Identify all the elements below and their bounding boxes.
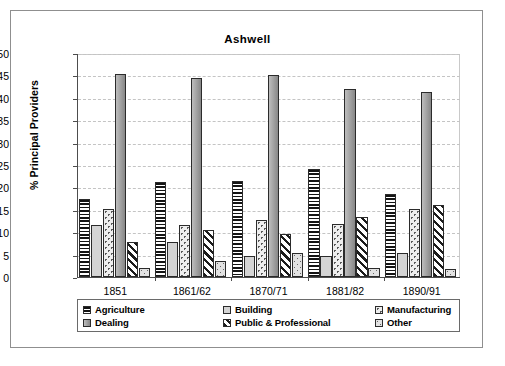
y-axis-label: % Principal Providers [28,50,40,220]
legend-item-building[interactable]: Building [223,304,375,315]
bar[interactable] [385,194,396,277]
y-tick-label: 10 [0,227,9,239]
y-tick-label: 50 [0,48,9,60]
x-axis-tick [155,277,156,281]
bar[interactable] [421,92,432,277]
legend-label: Public & Professional [235,317,331,328]
x-axis-tick [384,277,385,281]
bar[interactable] [191,78,202,277]
bar[interactable] [79,199,90,277]
legend-item-agriculture[interactable]: Agriculture [83,304,223,315]
y-tick-label: 5 [0,250,9,262]
bar[interactable] [179,225,190,277]
legend-label: Other [387,317,412,328]
building-swatch-icon [223,306,231,314]
legend-label: Manufacturing [387,304,451,315]
y-tick-label: 25 [0,160,9,172]
x-tick-label: 1851 [104,285,127,297]
x-tick-label: 1881/82 [326,285,364,297]
y-tick-label: 20 [0,182,9,194]
bar[interactable] [332,224,343,277]
chart-title: Ashwell [11,33,484,45]
bar[interactable] [232,181,243,277]
chart-legend: Agriculture Building Manufacturing Deali… [77,299,460,332]
bar[interactable] [103,209,114,277]
bar[interactable] [203,230,214,277]
bar[interactable] [127,242,138,277]
bar-group [308,54,385,277]
bar[interactable] [91,225,102,277]
y-tick-label: 35 [0,115,9,127]
bar[interactable] [308,169,319,277]
bar[interactable] [268,75,279,277]
y-tick-label: 40 [0,93,9,105]
bar[interactable] [115,74,126,277]
x-tick-label: 1870/71 [250,285,288,297]
legend-row-2: Dealing Public & Professional Other [83,316,455,329]
legend-item-dealing[interactable]: Dealing [83,317,223,328]
bar[interactable] [215,261,226,277]
bar[interactable] [445,269,456,278]
bar[interactable] [155,182,166,277]
y-tick-label: 0 [0,272,9,284]
x-axis-tick [231,277,232,281]
x-axis-tick [308,277,309,281]
legend-label: Dealing [95,317,129,328]
bar[interactable] [356,217,367,277]
legend-label: Building [235,304,272,315]
agriculture-swatch-icon [83,306,91,314]
bar-group [384,54,461,277]
manufacturing-swatch-icon [375,306,383,314]
bar[interactable] [433,205,444,277]
legend-label: Agriculture [95,304,145,315]
public-professional-swatch-icon [223,319,231,327]
y-tick-mark [73,278,77,279]
x-tick-label: 1890/91 [403,285,441,297]
bar[interactable] [320,256,331,277]
plot-area [77,54,460,278]
bar[interactable] [368,268,379,277]
bar[interactable] [397,253,408,277]
chart-frame: Ashwell % Principal Providers 0510152025… [10,10,483,348]
bar[interactable] [280,234,291,277]
legend-item-manufacturing[interactable]: Manufacturing [375,304,451,315]
other-swatch-icon [375,319,383,327]
y-tick-label: 45 [0,70,9,82]
bar[interactable] [409,209,420,277]
legend-row-1: Agriculture Building Manufacturing [83,303,455,316]
bar-group [231,54,308,277]
bar[interactable] [244,256,255,278]
bar-group [155,54,232,277]
dealing-swatch-icon [83,319,91,327]
bar[interactable] [139,268,150,277]
legend-item-public-professional[interactable]: Public & Professional [223,317,375,328]
bar-group [78,54,155,277]
bar[interactable] [167,242,178,277]
legend-item-other[interactable]: Other [375,317,412,328]
bar[interactable] [256,220,267,277]
bar[interactable] [292,253,303,277]
y-tick-label: 30 [0,138,9,150]
x-tick-label: 1861/62 [173,285,211,297]
bar[interactable] [344,89,355,277]
y-tick-label: 15 [0,205,9,217]
